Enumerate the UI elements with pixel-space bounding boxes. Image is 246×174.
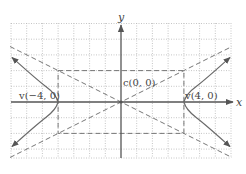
y-axis-label: y	[117, 11, 125, 24]
hyperbola-diagram: x y c(0, 0) v(−4, 0) v(4, 0)	[0, 0, 246, 174]
center-label: c(0, 0)	[123, 77, 156, 88]
center-point	[119, 100, 122, 103]
vertex-right-label: v(4, 0)	[184, 90, 218, 101]
x-axis-label: x	[236, 96, 243, 109]
vertex-left-label: v(−4, 0)	[18, 90, 60, 101]
